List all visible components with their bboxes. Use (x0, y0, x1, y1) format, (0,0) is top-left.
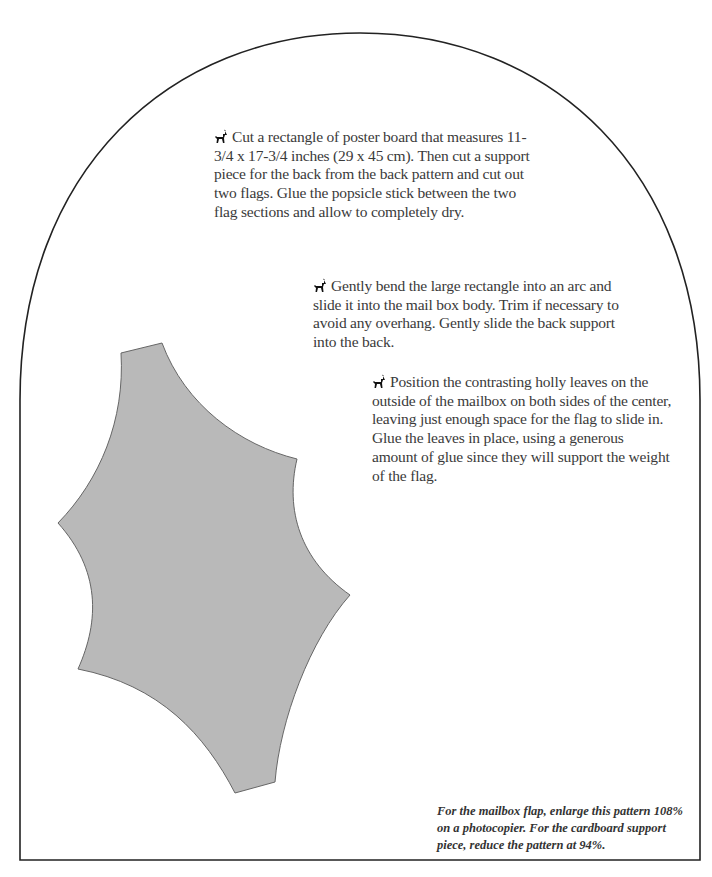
holly-leaf-shape (58, 343, 350, 793)
instruction-step-3: Position the contrasting holly leaves on… (372, 373, 672, 485)
deer-icon (313, 277, 327, 293)
deer-icon (372, 373, 386, 389)
deer-icon (214, 128, 228, 144)
instruction-step-1: Cut a rectangle of poster board that mea… (214, 128, 534, 222)
instruction-step-2: Gently bend the large rectangle into an … (313, 277, 623, 352)
pattern-size-note: For the mailbox flap, enlarge this patte… (437, 803, 687, 854)
